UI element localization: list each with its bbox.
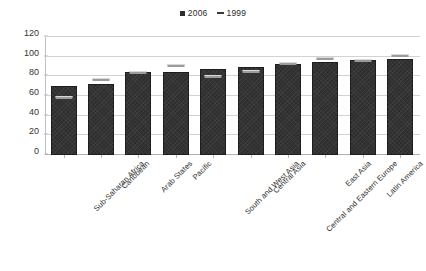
bar-group[interactable] bbox=[45, 37, 82, 155]
bar-chart: 2006 1999 020406080100120 Sub-Saharan Af… bbox=[0, 0, 426, 271]
x-tick-mark bbox=[251, 155, 252, 158]
y-tick-label-80: 80 bbox=[29, 67, 39, 77]
x-axis-label: Arab States bbox=[159, 159, 194, 194]
bar-2006[interactable] bbox=[163, 72, 189, 155]
legend-entry-2006: 2006 bbox=[180, 8, 208, 18]
bar-2006[interactable] bbox=[387, 59, 413, 155]
marker-1999[interactable] bbox=[167, 64, 184, 67]
x-tick-mark bbox=[400, 155, 401, 158]
x-tick-mark bbox=[325, 155, 326, 158]
legend-dash-icon bbox=[217, 12, 224, 14]
bar-group[interactable] bbox=[195, 37, 232, 155]
bar-2006[interactable] bbox=[275, 64, 301, 155]
x-tick-mark bbox=[64, 155, 65, 158]
y-tick-label-60: 60 bbox=[29, 87, 39, 97]
bar-group[interactable] bbox=[82, 37, 119, 155]
bar-2006[interactable] bbox=[125, 72, 151, 155]
x-tick-mark bbox=[363, 155, 364, 158]
legend-label-1999: 1999 bbox=[227, 8, 247, 18]
marker-1999[interactable] bbox=[317, 57, 334, 60]
legend-label-2006: 2006 bbox=[188, 8, 208, 18]
x-tick-mark bbox=[176, 155, 177, 158]
marker-1999[interactable] bbox=[205, 75, 222, 78]
chart-legend: 2006 1999 bbox=[0, 8, 426, 18]
y-axis: 020406080100120 bbox=[0, 37, 45, 155]
y-tick-label-100: 100 bbox=[24, 48, 39, 58]
bar-group[interactable] bbox=[344, 37, 381, 155]
marker-1999[interactable] bbox=[55, 96, 72, 99]
y-tick-label-20: 20 bbox=[29, 126, 39, 136]
bar-2006[interactable] bbox=[238, 67, 264, 156]
x-tick-mark bbox=[213, 155, 214, 158]
bars-layer bbox=[45, 37, 419, 155]
y-tick-label-40: 40 bbox=[29, 107, 39, 117]
x-axis-label: Pacific bbox=[191, 159, 214, 182]
y-tick-label-120: 120 bbox=[24, 28, 39, 38]
bar-group[interactable] bbox=[120, 37, 157, 155]
bar-2006[interactable] bbox=[200, 69, 226, 155]
x-tick-mark bbox=[101, 155, 102, 158]
marker-1999[interactable] bbox=[280, 62, 297, 65]
bar-group[interactable] bbox=[269, 37, 306, 155]
y-tick-label-0: 0 bbox=[34, 146, 39, 156]
bar-group[interactable] bbox=[382, 37, 419, 155]
legend-square-icon bbox=[180, 11, 185, 16]
x-axis-labels: Sub-Saharan AfricaCaribbeanArab StatesPa… bbox=[45, 159, 419, 271]
bar-group[interactable] bbox=[157, 37, 194, 155]
bar-2006[interactable] bbox=[350, 60, 376, 155]
bar-2006[interactable] bbox=[312, 62, 338, 155]
bar-group[interactable] bbox=[307, 37, 344, 155]
x-tick-mark bbox=[288, 155, 289, 158]
bar-2006[interactable] bbox=[88, 84, 114, 155]
marker-1999[interactable] bbox=[130, 71, 147, 74]
legend-entry-1999: 1999 bbox=[217, 8, 247, 18]
bar-group[interactable] bbox=[232, 37, 269, 155]
marker-1999[interactable] bbox=[354, 59, 371, 62]
marker-1999[interactable] bbox=[392, 54, 409, 57]
marker-1999[interactable] bbox=[242, 70, 259, 73]
marker-1999[interactable] bbox=[93, 78, 110, 81]
